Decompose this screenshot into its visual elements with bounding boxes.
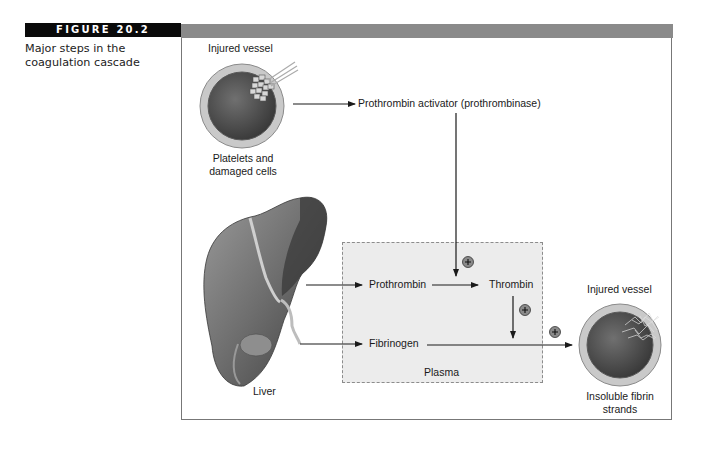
plasma-label: Plasma — [424, 366, 459, 378]
liver-icon — [204, 197, 327, 386]
platelets-label-line-2: damaged cells — [195, 165, 291, 178]
platelets-label-line-1: Platelets and — [195, 152, 291, 165]
plus-icon-thrombin — [520, 305, 531, 316]
injured-vessel-bottom-icon — [579, 304, 661, 386]
injured-vessel-top-label: Injured vessel — [208, 42, 273, 54]
fibrin-strands-label-line-2: strands — [572, 403, 668, 416]
platelets-label: Platelets and damaged cells — [195, 152, 291, 178]
prothrombin-activator-label: Prothrombin activator (prothrombinase) — [358, 97, 541, 109]
diagram-graphics — [0, 0, 710, 449]
injured-vessel-top-icon — [200, 62, 298, 148]
fibrin-strands-label: Insoluble fibrin strands — [572, 390, 668, 416]
plus-icon-fibrin — [550, 327, 561, 338]
fibrinogen-label: Fibrinogen — [369, 337, 419, 349]
liver-label: Liver — [253, 385, 276, 397]
fibrin-strands-label-line-1: Insoluble fibrin — [572, 390, 668, 403]
prothrombin-label: Prothrombin — [369, 278, 426, 290]
plus-icon-activator — [463, 257, 474, 268]
thrombin-label: Thrombin — [489, 278, 533, 290]
injured-vessel-bottom-label: Injured vessel — [587, 283, 652, 295]
